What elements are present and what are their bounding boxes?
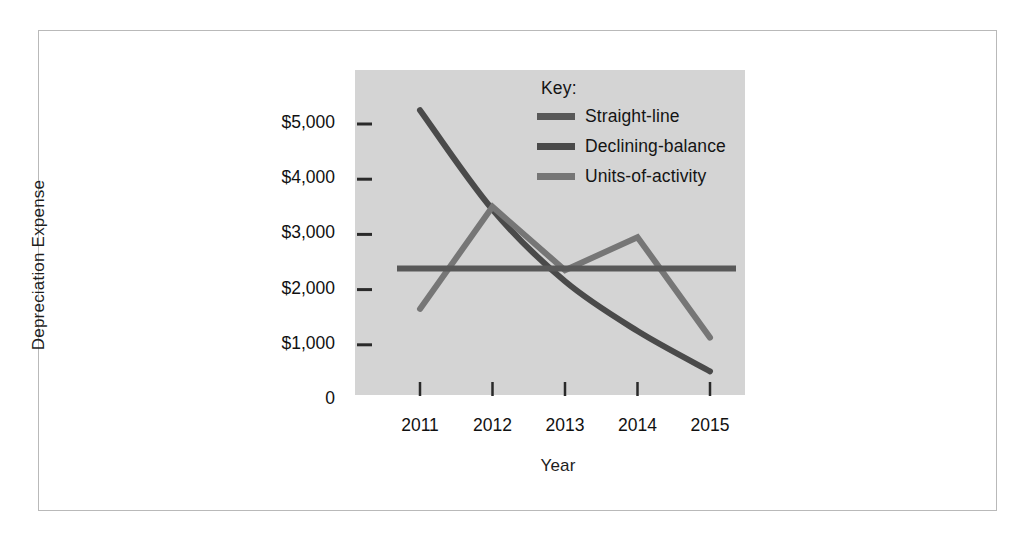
x-tick-label: 2015 — [675, 415, 745, 436]
x-tick-label: 2011 — [385, 415, 455, 436]
legend-item-group: Straight-lineDeclining-balanceUnits-of-a… — [537, 106, 757, 187]
x-tick-label: 2013 — [530, 415, 600, 436]
y-axis-tick-label-group: $5,000$4,000$3,000$2,000$1,0000 — [243, 0, 335, 544]
chart-legend: Key: Straight-lineDeclining-balanceUnits… — [537, 78, 757, 196]
y-axis-title: Depreciation Expense — [29, 150, 49, 380]
y-tick-label: $2,000 — [243, 278, 335, 299]
legend-item-label: Straight-line — [585, 106, 680, 127]
legend-item-label: Declining-balance — [585, 136, 726, 157]
legend-item: Straight-line — [537, 106, 757, 127]
y-tick-label: 0 — [243, 388, 335, 409]
legend-item: Declining-balance — [537, 136, 757, 157]
y-tick-label: $3,000 — [243, 222, 335, 243]
y-tick-label: $5,000 — [243, 112, 335, 133]
legend-item-label: Units-of-activity — [585, 166, 706, 187]
y-tick-label: $1,000 — [243, 333, 335, 354]
legend-color-swatch — [537, 113, 575, 120]
legend-title: Key: — [541, 78, 757, 99]
x-tick-label: 2012 — [458, 415, 528, 436]
depreciation-expense-chart: $5,000$4,000$3,000$2,000$1,0000 20112012… — [0, 0, 1036, 544]
x-axis-title: Year — [498, 456, 618, 476]
y-tick-label: $4,000 — [243, 167, 335, 188]
legend-color-swatch — [537, 173, 575, 180]
x-tick-label: 2014 — [603, 415, 673, 436]
legend-item: Units-of-activity — [537, 166, 757, 187]
legend-color-swatch — [537, 143, 575, 150]
x-axis-tick-label-group: 20112012201320142015 — [0, 415, 1036, 445]
